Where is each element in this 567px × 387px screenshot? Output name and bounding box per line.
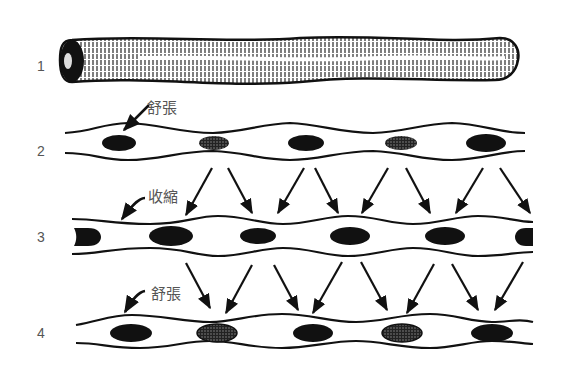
label-contraction: 收縮	[148, 185, 178, 206]
row-number-2: 2	[37, 143, 45, 159]
arrows-2-to-3	[186, 168, 530, 215]
arrow-contract-3	[122, 198, 145, 219]
nuclei-row-3	[74, 226, 533, 246]
row-number-3: 3	[37, 229, 45, 245]
label-relaxation-bottom: 舒張	[151, 282, 181, 303]
nuclei-row-2	[102, 134, 506, 152]
peristalsis-diagram	[0, 0, 567, 387]
nuclei-row-4	[110, 324, 513, 342]
label-relaxation-top: 舒張	[147, 96, 177, 117]
row-number-4: 4	[37, 325, 45, 341]
row-number-1: 1	[37, 58, 45, 74]
arrows-3-to-4	[186, 262, 523, 313]
arrow-relax-2	[124, 105, 149, 130]
muscle-tube	[60, 37, 518, 84]
arrow-relax-4	[125, 291, 145, 312]
